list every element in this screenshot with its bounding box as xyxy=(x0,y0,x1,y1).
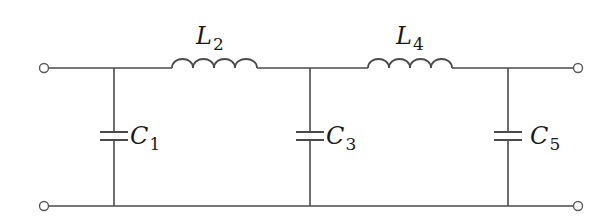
label-c5-main: C xyxy=(530,122,548,150)
label-l2: L2 xyxy=(196,24,224,48)
label-c1-main: C xyxy=(130,122,148,150)
label-c5: C5 xyxy=(530,124,560,148)
label-l4: L4 xyxy=(396,24,424,48)
terminal-output-top-icon xyxy=(574,64,583,73)
terminal-output-bottom-icon xyxy=(574,202,583,211)
label-c3-sub: 3 xyxy=(345,134,356,154)
label-c3: C3 xyxy=(326,124,356,148)
terminal-input-bottom-icon xyxy=(40,202,49,211)
label-c1: C1 xyxy=(130,124,160,148)
label-l4-sub: 4 xyxy=(413,34,424,54)
capacitor-c3-icon xyxy=(296,68,324,206)
lc-ladder-circuit xyxy=(0,0,616,220)
label-l4-main: L xyxy=(396,22,412,50)
label-c5-sub: 5 xyxy=(549,134,560,154)
capacitor-c1-icon xyxy=(100,68,128,206)
label-c3-main: C xyxy=(326,122,344,150)
label-l2-sub: 2 xyxy=(213,34,224,54)
inductor-l2-icon xyxy=(172,59,257,68)
label-l2-main: L xyxy=(196,22,212,50)
inductor-l4-icon xyxy=(368,59,452,68)
capacitor-c5-icon xyxy=(494,68,522,206)
terminal-input-top-icon xyxy=(40,64,49,73)
label-c1-sub: 1 xyxy=(149,134,160,154)
